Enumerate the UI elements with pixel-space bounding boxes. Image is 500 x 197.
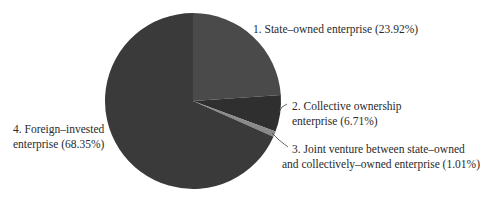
leader-line-slice3	[272, 133, 288, 147]
label-state-owned-line1: 1. State–owned enterprise (23.92%)	[253, 22, 418, 37]
label-joint-venture: 3. Joint venture between state–owned and…	[292, 142, 480, 172]
label-collective-line2: enterprise (6.71%)	[292, 114, 402, 129]
label-joint-venture-line1: 3. Joint venture between state–owned	[292, 142, 480, 157]
pie-slices	[105, 13, 281, 189]
label-collective-line1: 2. Collective ownership	[292, 99, 402, 114]
label-foreign-invested-line2: enterprise (68.35%)	[13, 137, 104, 152]
label-collective: 2. Collective ownership enterprise (6.71…	[292, 99, 402, 129]
label-state-owned: 1. State–owned enterprise (23.92%)	[253, 22, 418, 37]
label-foreign-invested: 4. Foreign–invested enterprise (68.35%)	[13, 122, 104, 152]
label-foreign-invested-line1: 4. Foreign–invested	[13, 122, 104, 137]
label-joint-venture-line2: and collectively–owned enterprise (1.01%…	[282, 157, 480, 172]
